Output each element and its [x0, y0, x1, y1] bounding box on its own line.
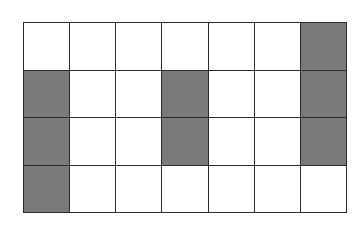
grid-cell-empty: [162, 166, 207, 213]
grid-cell-empty: [255, 71, 300, 118]
grid-cell-empty: [116, 118, 161, 165]
grid-cell-empty: [70, 166, 115, 213]
grid-cell-empty: [255, 166, 300, 213]
grid-cell-shaded: [162, 71, 207, 118]
grid-cell-shaded: [301, 71, 346, 118]
grid-cell-empty: [70, 23, 115, 70]
grid-cell-empty: [209, 71, 254, 118]
grid-cell-empty: [209, 166, 254, 213]
grid-cell-empty: [209, 118, 254, 165]
grid-cell-shaded: [24, 118, 69, 165]
shaded-grid: [23, 22, 347, 213]
grid-cell-empty: [255, 118, 300, 165]
grid-cell-empty: [162, 23, 207, 70]
grid-cell-empty: [24, 23, 69, 70]
grid-cell-empty: [116, 71, 161, 118]
grid-cell-empty: [116, 166, 161, 213]
grid-cell-shaded: [162, 118, 207, 165]
grid-cell-shaded: [24, 166, 69, 213]
grid-cell-shaded: [24, 71, 69, 118]
grid-cell-shaded: [301, 118, 346, 165]
grid-cell-shaded: [301, 23, 346, 70]
grid-cell-empty: [70, 118, 115, 165]
grid-cell-empty: [301, 166, 346, 213]
grid-cell-empty: [255, 23, 300, 70]
grid-cell-empty: [209, 23, 254, 70]
grid-cell-empty: [116, 23, 161, 70]
grid-cell-empty: [70, 71, 115, 118]
